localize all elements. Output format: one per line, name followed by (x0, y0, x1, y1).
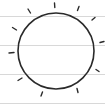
sun-icon (0, 0, 105, 105)
sun-doodle-canvas (0, 0, 105, 105)
ray-icon (41, 92, 43, 96)
ray-icon (92, 18, 95, 21)
ray-icon (13, 28, 17, 31)
ray-icon (78, 7, 80, 11)
ray-icon (96, 70, 99, 72)
ray-icon (100, 42, 104, 43)
ray-icon (28, 9, 31, 13)
ray-icon (77, 89, 78, 93)
ray-icon (9, 53, 14, 54)
sun-disc-circle (18, 13, 94, 89)
ray-icon (18, 78, 22, 81)
